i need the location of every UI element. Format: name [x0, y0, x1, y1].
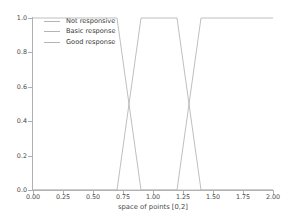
legend-line-icon: [44, 31, 60, 32]
legend-line-icon: [44, 21, 60, 22]
legend-item-good-response: Good response: [44, 37, 116, 48]
legend: Not responsive Basic response Good respo…: [44, 16, 116, 48]
figure-canvas: Membership space of points [0,2] 0.00.20…: [0, 0, 282, 224]
plot-curves: [0, 0, 282, 224]
legend-item-basic-response: Basic response: [44, 27, 116, 38]
legend-label: Not responsive: [66, 18, 115, 25]
legend-label: Basic response: [66, 28, 116, 35]
legend-item-not-responsive: Not responsive: [44, 16, 116, 27]
legend-line-icon: [44, 42, 60, 43]
legend-label: Good response: [66, 39, 115, 46]
